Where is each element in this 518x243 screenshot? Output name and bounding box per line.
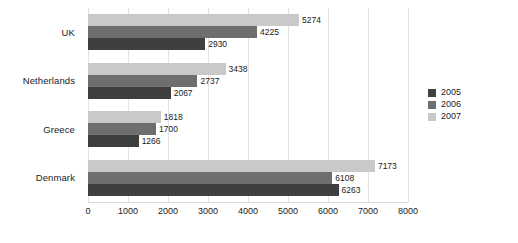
x-tick-label: 1000 [118, 206, 138, 216]
bar-value-label: 7173 [378, 162, 397, 171]
value-axis-baseline [88, 202, 408, 203]
bar-value-label: 1818 [164, 113, 183, 122]
bar-value-label: 4225 [260, 28, 279, 37]
bar-2007 [88, 14, 299, 26]
legend-item[interactable]: 2005 [428, 88, 461, 97]
bar-row: 6108 [88, 172, 408, 184]
category-axis: UKNetherlandsGreeceDenmark [0, 8, 82, 202]
legend-label: 2007 [441, 112, 461, 121]
legend-label: 2005 [441, 88, 461, 97]
bar-value-label: 3438 [229, 65, 248, 74]
x-tick-label: 6000 [318, 206, 338, 216]
bar-2007 [88, 63, 226, 75]
bar-row: 2067 [88, 87, 408, 99]
value-axis-ticks: 010002000300040005000600070008000 [88, 206, 408, 222]
gridline [408, 8, 409, 202]
bar-value-label: 1700 [159, 125, 178, 134]
legend: 200520062007 [428, 88, 461, 121]
plot-area: 5274422529303438273720671818170012667173… [88, 8, 408, 202]
bar-chart: UKNetherlandsGreeceDenmark 5274422529303… [0, 0, 518, 243]
bar-row: 3438 [88, 63, 408, 75]
bar-row: 7173 [88, 160, 408, 172]
legend-label: 2006 [441, 100, 461, 109]
bar-row: 2737 [88, 75, 408, 87]
bar-value-label: 5274 [302, 16, 321, 25]
bar-2005 [88, 87, 171, 99]
bar-row: 1266 [88, 135, 408, 147]
bar-2006 [88, 26, 257, 38]
bar-row: 1818 [88, 111, 408, 123]
x-tick-label: 2000 [158, 206, 178, 216]
bar-2005 [88, 38, 205, 50]
bar-value-label: 6263 [342, 186, 361, 195]
bar-value-label: 2067 [174, 89, 193, 98]
bar-groups: 5274422529303438273720671818170012667173… [88, 8, 408, 202]
bar-value-label: 2737 [200, 77, 219, 86]
bar-2005 [88, 135, 139, 147]
x-tick-label: 7000 [358, 206, 378, 216]
legend-swatch-icon [428, 101, 436, 109]
x-tick-label: 4000 [238, 206, 258, 216]
bar-value-label: 2930 [208, 40, 227, 49]
legend-swatch-icon [428, 113, 436, 121]
category-label: UK [0, 8, 82, 57]
category-label: Denmark [0, 154, 82, 203]
bar-group: 527442252930 [88, 8, 408, 57]
bar-row: 2930 [88, 38, 408, 50]
bar-group: 717361086263 [88, 154, 408, 203]
x-tick-label: 5000 [278, 206, 298, 216]
bar-group: 181817001266 [88, 105, 408, 154]
bar-value-label: 1266 [142, 137, 161, 146]
bar-group: 343827372067 [88, 57, 408, 106]
x-tick-label: 3000 [198, 206, 218, 216]
x-tick-label: 0 [85, 206, 90, 216]
bar-row: 5274 [88, 14, 408, 26]
bar-row: 1700 [88, 123, 408, 135]
legend-item[interactable]: 2007 [428, 112, 461, 121]
category-label: Greece [0, 105, 82, 154]
legend-item[interactable]: 2006 [428, 100, 461, 109]
bar-2006 [88, 75, 197, 87]
legend-swatch-icon [428, 89, 436, 97]
category-label: Netherlands [0, 57, 82, 106]
bar-2007 [88, 160, 375, 172]
bar-row: 4225 [88, 26, 408, 38]
bar-2007 [88, 111, 161, 123]
bar-value-label: 6108 [335, 174, 354, 183]
x-tick-label: 8000 [398, 206, 418, 216]
bar-2006 [88, 172, 332, 184]
bar-2005 [88, 184, 339, 196]
bar-2006 [88, 123, 156, 135]
bar-row: 6263 [88, 184, 408, 196]
